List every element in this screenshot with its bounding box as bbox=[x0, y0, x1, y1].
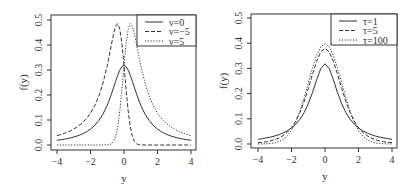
y-tick-label: 0.5 bbox=[33, 14, 44, 27]
chart-canvas: −4−2024y0.00.10.20.30.40.5f(y)ν=0ν=−5ν=5… bbox=[0, 0, 410, 196]
x-tick-label: 4 bbox=[390, 154, 395, 165]
series-line-0 bbox=[57, 65, 191, 140]
y-tick-label: 0.2 bbox=[33, 89, 44, 102]
x-tick-label: −4 bbox=[52, 156, 63, 167]
series-line-0 bbox=[258, 64, 392, 139]
legend-label: τ=100 bbox=[363, 35, 388, 46]
x-axis-title: y bbox=[121, 172, 127, 184]
y-tick-label: 0.4 bbox=[33, 39, 44, 52]
x-tick-label: −2 bbox=[286, 154, 297, 165]
y-tick-label: 0.2 bbox=[233, 87, 244, 100]
x-tick-label: 0 bbox=[323, 154, 328, 165]
y-axis: 0.00.10.20.30.40.5 bbox=[33, 14, 51, 152]
y-tick-label: 0.1 bbox=[233, 113, 244, 126]
legend: ν=0ν=−5ν=5 bbox=[137, 15, 196, 47]
chart-panel-left: −4−2024y0.00.10.20.30.40.5f(y)ν=0ν=−5ν=5 bbox=[17, 14, 196, 184]
x-tick-label: 4 bbox=[189, 156, 194, 167]
legend: τ=1τ=5τ=100 bbox=[331, 14, 397, 46]
x-tick-label: 2 bbox=[155, 156, 160, 167]
y-axis: 0.00.10.20.30.40.5 bbox=[233, 12, 251, 151]
y-tick-label: 0.1 bbox=[33, 114, 44, 127]
chart-panel-right: −4−2024y0.00.10.20.30.40.5f(y)τ=1τ=5τ=10… bbox=[217, 12, 397, 182]
legend-label: ν=5 bbox=[169, 36, 184, 47]
x-axis: −4−2024 bbox=[52, 150, 194, 167]
y-tick-label: 0.0 bbox=[33, 139, 44, 152]
y-tick-label: 0.5 bbox=[233, 12, 244, 25]
y-tick-label: 0.3 bbox=[233, 62, 244, 75]
x-tick-label: −4 bbox=[253, 154, 264, 165]
y-axis-title: f(y) bbox=[217, 72, 230, 89]
x-axis: −4−2024 bbox=[253, 148, 395, 165]
x-tick-label: −2 bbox=[85, 156, 96, 167]
series-line-2 bbox=[258, 44, 392, 144]
figure: −4−2024y0.00.10.20.30.40.5f(y)ν=0ν=−5ν=5… bbox=[0, 0, 410, 196]
y-axis-title: f(y) bbox=[17, 74, 30, 91]
series-line-1 bbox=[258, 48, 392, 142]
y-tick-label: 0.4 bbox=[233, 37, 244, 50]
y-tick-label: 0.3 bbox=[33, 64, 44, 77]
x-axis-title: y bbox=[322, 170, 328, 182]
x-tick-label: 2 bbox=[356, 154, 361, 165]
y-tick-label: 0.0 bbox=[233, 138, 244, 151]
x-tick-label: 0 bbox=[122, 156, 127, 167]
